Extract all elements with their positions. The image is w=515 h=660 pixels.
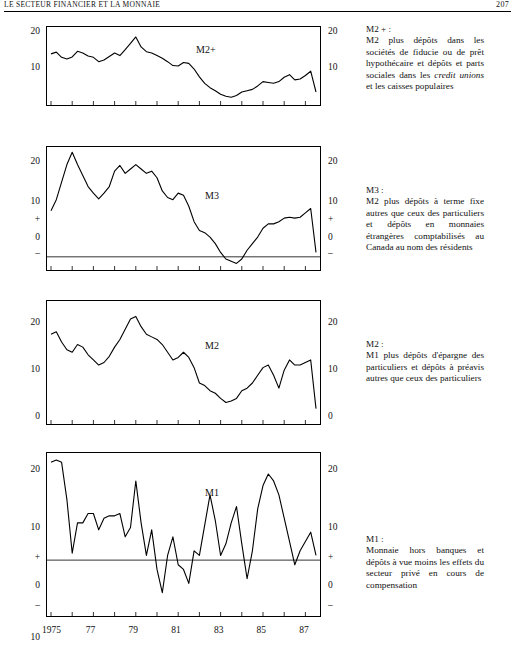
ytick-left-m2-0: 0 [10, 411, 40, 421]
x-tick-85: 85 [257, 625, 267, 635]
note-title-m1: M1 : [366, 534, 484, 545]
ytick-right-m1-20: 20 [328, 464, 358, 474]
ytick-right-m1-0: 0 [328, 580, 358, 590]
ytick-right-m2-0: 0 [328, 411, 358, 421]
running-head: LE SECTEUR FINANCIER ET LA MONNAIE 207 [0, 0, 515, 14]
plot-area-m2plus [46, 26, 321, 106]
running-head-left: LE SECTEUR FINANCIER ET LA MONNAIE [4, 0, 160, 9]
ytick-left-m1-0: 0 [10, 580, 40, 590]
ytick-left-m3-0: 0 [10, 232, 40, 242]
plot-area-m3 [46, 146, 321, 271]
series-label-m1: M1 [205, 487, 219, 498]
note-title-m2plus: M2 + : [366, 24, 484, 35]
note-title-m3: M3 : [366, 185, 484, 196]
ytick-right-m3-20: 20 [328, 156, 358, 166]
running-head-rule [4, 11, 511, 12]
note-m1: M1 :Monnaie hors banques et dépôts à vue… [366, 534, 484, 591]
ytick-left-m1-minus: – [10, 600, 40, 610]
ytick-right-m3-10: 10 [328, 196, 358, 206]
note-title-m2: M2 : [366, 339, 484, 350]
x-tick-79: 79 [128, 625, 138, 635]
plot-area-m1 [46, 452, 321, 617]
line-chart-m2plus [47, 27, 320, 105]
ytick-right-m2-10: 10 [328, 364, 358, 374]
ytick-left-m1-20: 20 [10, 464, 40, 474]
ytick-left-m2-20: 20 [10, 317, 40, 327]
line-chart-m3 [47, 147, 320, 270]
x-tick-87: 87 [299, 625, 309, 635]
note-m3: M3 :M2 plus dépôts à terme fixe autres q… [366, 185, 484, 253]
ytick-right-m1-minus: – [328, 600, 358, 610]
x-axis-labels: 1975777981838587 [0, 625, 515, 645]
ytick-right-m1-10: 10 [328, 522, 358, 532]
running-head-right: 207 [496, 0, 509, 9]
ytick-right-m3-0: 0 [328, 232, 358, 242]
ytick-left-m3-20: 20 [10, 156, 40, 166]
ytick-right-m2-20: 20 [328, 317, 358, 327]
plot-area-m2 [46, 300, 321, 425]
line-chart-m2 [47, 301, 320, 424]
ytick-left-m3-minus: – [10, 248, 40, 258]
line-chart-m1 [47, 453, 320, 616]
ytick-right-m2plus-20: 20 [328, 26, 358, 36]
series-label-m2: M2 [205, 340, 219, 351]
series-label-m2plus: M2+ [196, 44, 216, 55]
ytick-left-m3-plus: + [10, 214, 40, 224]
note-italic-m2plus: credit unions [434, 70, 484, 80]
note-m2plus: M2 + :M2 plus dépôts dans les sociétés d… [366, 24, 484, 92]
ytick-right-m3-minus: – [328, 248, 358, 258]
note-body-m2: M1 plus dépôts d'épargne des particulier… [366, 350, 484, 383]
ytick-left-m3-10: 10 [10, 196, 40, 206]
ytick-left-m1-10: 10 [10, 522, 40, 532]
x-tick-77: 77 [86, 625, 96, 635]
ytick-right-m3-plus: + [328, 214, 358, 224]
ytick-left-m1-plus: + [10, 552, 40, 562]
figure-page: LE SECTEUR FINANCIER ET LA MONNAIE 207 2… [0, 0, 515, 660]
ytick-right-m1-plus: + [328, 552, 358, 562]
ytick-right-m2plus-10: 10 [328, 62, 358, 72]
ytick-left-m2plus-20: 20 [10, 26, 40, 36]
x-tick-81: 81 [171, 625, 181, 635]
note-body-m1: Monnaie hors banques et dépôts à vue moi… [366, 545, 484, 589]
note-body-m2plus-2: et les caisses populaires [366, 81, 454, 91]
ytick-left-m2-10: 10 [10, 364, 40, 374]
ytick-left-m2plus-10: 10 [10, 62, 40, 72]
note-body-m3: M2 plus dépôts à terme fixe autres que c… [366, 196, 484, 252]
x-tick-1975: 1975 [42, 625, 61, 635]
note-m2: M2 :M1 plus dépôts d'épargne des particu… [366, 339, 484, 385]
series-label-m3: M3 [205, 190, 219, 201]
x-tick-83: 83 [214, 625, 224, 635]
